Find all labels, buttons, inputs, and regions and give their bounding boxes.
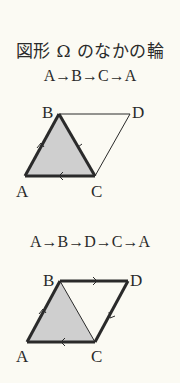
vertex-label-D: D — [130, 271, 142, 290]
vertex-label-B: B — [42, 103, 53, 122]
edge-DC — [95, 114, 130, 176]
edge-DC — [95, 281, 128, 342]
diagram-1: B D A C — [0, 100, 180, 205]
path-sequence-2: A→B→D→C→A — [0, 233, 180, 251]
vertex-label-D: D — [132, 103, 144, 122]
path-sequence-1: A→B→C→A — [0, 67, 180, 85]
vertex-label-A: A — [16, 182, 29, 201]
shaded-triangle — [27, 281, 95, 342]
vertex-label-A: A — [16, 347, 29, 366]
vertex-label-C: C — [91, 182, 102, 201]
shaded-triangle — [25, 114, 95, 176]
vertex-label-B: B — [43, 271, 54, 290]
vertex-label-C: C — [91, 347, 102, 366]
diagram-2: B D A C — [0, 268, 180, 378]
figure-title: 図形 Ω のなかの輪 — [0, 37, 180, 62]
